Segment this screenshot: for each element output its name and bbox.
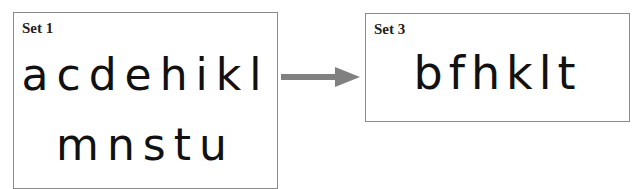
set-1-box: Set 1 acdehikl mnstu <box>13 12 278 189</box>
set-1-letters-row-1: acdehikl <box>14 49 277 100</box>
set-3-box: Set 3 bfhklt <box>365 13 630 122</box>
right-arrow-icon <box>281 64 361 90</box>
set-1-letters-row-2: mnstu <box>14 119 277 170</box>
set-3-label: Set 3 <box>374 21 405 38</box>
set-1-label: Set 1 <box>22 20 53 37</box>
set-3-letters-row-1: bfhklt <box>366 46 629 100</box>
